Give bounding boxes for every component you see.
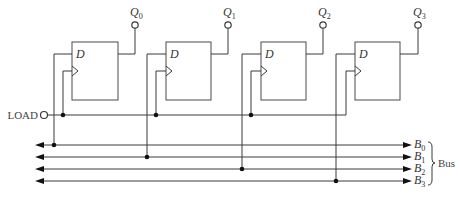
- junction-dot: [145, 155, 150, 160]
- flipflop-0: D Q0: [52, 5, 143, 147]
- bus-line-b3: [35, 178, 412, 184]
- bus-line-b2: [35, 166, 412, 172]
- d-input-label: D: [169, 47, 179, 61]
- q-terminal-icon: [225, 22, 231, 28]
- q-terminal-icon: [132, 22, 138, 28]
- arrow-right-icon: [403, 154, 412, 160]
- junction-dot: [240, 167, 245, 172]
- load-label: LOAD: [7, 109, 38, 121]
- load-line: LOAD: [7, 109, 346, 121]
- d-input-label: D: [358, 47, 368, 61]
- q-output-label: Q3: [413, 5, 426, 21]
- junction-dot: [249, 113, 254, 118]
- arrow-left-icon: [35, 142, 44, 148]
- register-bus-diagram: LOAD D Q0 D Q1 D Q2: [0, 0, 460, 204]
- clock-wire: [346, 71, 355, 115]
- bus-line-b0: [35, 142, 412, 148]
- bus-line-b1: [35, 154, 412, 160]
- junction-dot: [154, 113, 159, 118]
- clock-wire: [63, 71, 72, 115]
- bus-label: Bus: [438, 157, 455, 169]
- bus-brace-icon: [428, 142, 435, 185]
- q-terminal-icon: [320, 22, 326, 28]
- q-output-wire: [306, 28, 323, 54]
- arrow-right-icon: [403, 166, 412, 172]
- q-output-label: Q2: [318, 5, 331, 21]
- clock-wire: [251, 71, 261, 115]
- flipflop-2: D Q2: [240, 5, 331, 171]
- arrow-left-icon: [35, 154, 44, 160]
- flipflop-1: D Q1: [145, 5, 236, 159]
- bus-labels: B0 B1 B2 B3 Bus: [414, 137, 455, 189]
- q-output-label: Q1: [223, 5, 236, 21]
- d-input-label: D: [75, 47, 85, 61]
- q-output-wire: [400, 28, 418, 54]
- bus-lines: [35, 142, 412, 184]
- arrow-right-icon: [403, 142, 412, 148]
- junction-dot: [334, 179, 339, 184]
- junction-dot: [52, 143, 57, 148]
- clock-wire: [156, 71, 166, 115]
- q-output-label: Q0: [130, 5, 143, 21]
- arrow-left-icon: [35, 178, 44, 184]
- d-input-label: D: [264, 47, 274, 61]
- arrow-right-icon: [403, 178, 412, 184]
- q-output-wire: [211, 28, 228, 54]
- junction-dot: [61, 113, 66, 118]
- arrow-left-icon: [35, 166, 44, 172]
- q-output-wire: [118, 28, 135, 54]
- load-terminal-icon: [41, 112, 48, 119]
- q-terminal-icon: [415, 22, 421, 28]
